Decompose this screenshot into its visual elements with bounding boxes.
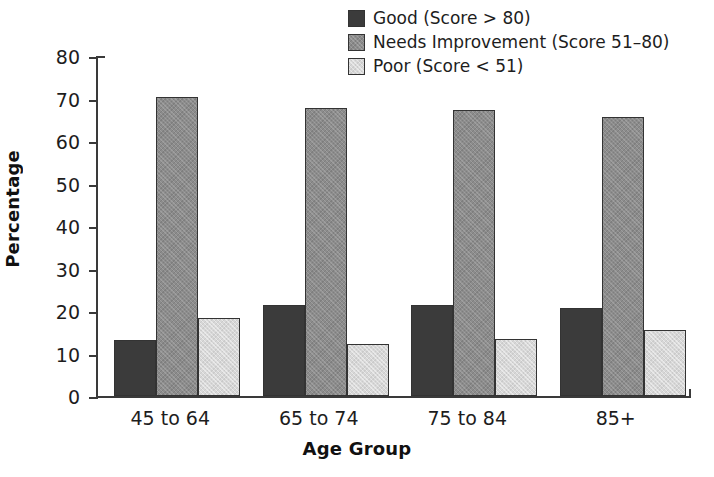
bar: [263, 305, 305, 396]
bar: [453, 110, 495, 396]
bar: [495, 339, 537, 396]
legend-swatch-needs-improvement-icon: [348, 34, 365, 51]
y-axis-tick-label: 60: [28, 133, 80, 152]
bar: [156, 97, 198, 396]
legend-item[interactable]: Needs Improvement (Score 51–80): [348, 32, 670, 53]
bar-group: [247, 58, 396, 396]
y-axis-tick-label: 40: [28, 218, 80, 237]
bar: [644, 330, 686, 396]
x-axis-tick-label: 85+: [542, 408, 691, 429]
y-axis-tick-label: 70: [28, 91, 80, 110]
y-axis-tick-label: 10: [28, 346, 80, 365]
y-axis-tick: [89, 355, 98, 357]
y-axis-tick-label: 50: [28, 176, 80, 195]
bar-chart: Good (Score > 80)Needs Improvement (Scor…: [0, 0, 714, 477]
legend-item-label: Needs Improvement (Score 51–80): [373, 33, 670, 52]
y-axis-tick-label: 80: [28, 48, 80, 67]
x-axis-title: Age Group: [0, 438, 714, 459]
legend-swatch-good-icon: [348, 10, 365, 27]
bar-group: [544, 58, 693, 396]
bar-group: [98, 58, 247, 396]
y-axis-tick: [89, 227, 98, 229]
x-axis-tick-label: 45 to 64: [96, 408, 245, 429]
y-axis-tick: [89, 397, 98, 399]
bar: [411, 305, 453, 396]
y-axis-tick-label: 20: [28, 303, 80, 322]
y-axis-tick: [89, 312, 98, 314]
legend-item-label: Good (Score > 80): [373, 9, 531, 28]
y-axis-tick-label: 0: [28, 388, 80, 407]
bar-group: [395, 58, 544, 396]
bar: [560, 308, 602, 396]
legend-item[interactable]: Good (Score > 80): [348, 8, 670, 29]
y-axis-tick: [89, 142, 98, 144]
plot-area: [96, 58, 690, 398]
y-axis-tick-label: 30: [28, 261, 80, 280]
y-axis-title: Percentage: [2, 150, 26, 268]
y-axis-tick: [89, 185, 98, 187]
bar: [602, 117, 644, 396]
bar: [305, 108, 347, 396]
bar: [198, 318, 240, 396]
y-axis-tick: [89, 57, 98, 59]
bar: [114, 340, 156, 396]
y-axis-tick: [89, 100, 98, 102]
x-axis-tick-label: 75 to 84: [393, 408, 542, 429]
y-axis-tick: [89, 270, 98, 272]
bar: [347, 344, 389, 396]
x-axis-tick-label: 65 to 74: [245, 408, 394, 429]
